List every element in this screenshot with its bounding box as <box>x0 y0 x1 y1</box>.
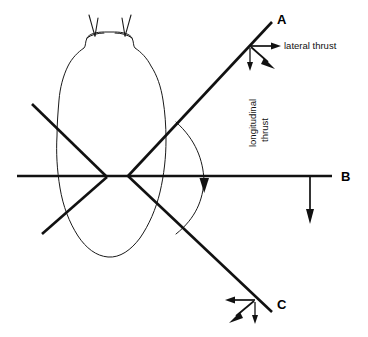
thrust-vectors-c <box>225 297 258 325</box>
axes-group <box>17 22 332 312</box>
axis-b-label: B <box>341 169 350 184</box>
resultant-thrust-arrow-a-head <box>261 58 275 69</box>
longitudinal-thrust-label-line2: thrust <box>259 118 270 142</box>
thrust-vectors-a <box>247 43 281 72</box>
lateral-thrust-arrow-c-head <box>225 297 235 304</box>
insect-antenna-right <box>125 15 131 36</box>
left-wing-stroke-upper-arm <box>32 104 107 177</box>
left-wing-stroke-lower-arm <box>42 177 107 234</box>
longitudinal-thrust-arrow-b-head <box>306 209 314 224</box>
longitudinal-thrust-label-line1: longitudinal <box>247 99 258 147</box>
stroke-plane-arc <box>176 122 204 180</box>
lateral-thrust-arrow-a-head <box>271 43 281 50</box>
lateral-thrust-label: lateral thrust <box>284 40 337 51</box>
diagram-root: A B C lateral thrust longitudinal thrust <box>0 0 368 337</box>
insect-body-group <box>57 15 166 257</box>
stroke-plane-arc-arrowhead <box>200 178 210 193</box>
axis-c-line <box>128 176 272 312</box>
left-wing-stroke-group <box>32 104 107 234</box>
longitudinal-thrust-arrow-a-head <box>247 62 253 71</box>
longitudinal-thrust-arrow-c-head <box>252 315 258 324</box>
axis-a-label: A <box>277 12 287 27</box>
thrust-vectors-b <box>306 177 314 224</box>
thrust-vector-diagram: A B C lateral thrust longitudinal thrust <box>0 0 368 337</box>
resultant-thrust-arrow-c-head <box>229 312 243 323</box>
axis-c-label: C <box>277 297 287 312</box>
stroke-plane-arc-group <box>176 122 209 234</box>
insect-antenna-left <box>89 15 95 36</box>
